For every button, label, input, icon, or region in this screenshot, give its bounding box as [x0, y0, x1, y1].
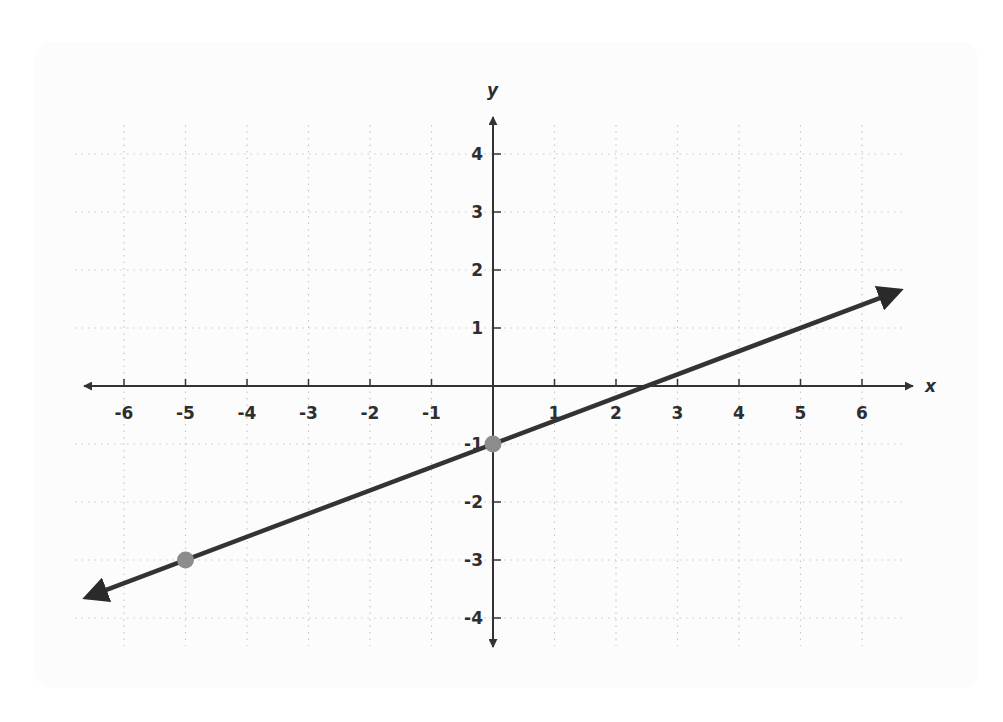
y-tick-label: -3 — [464, 550, 483, 570]
y-tick-label: 1 — [471, 318, 483, 338]
axes — [84, 117, 913, 647]
y-tick-label: -4 — [464, 608, 483, 628]
x-tick-label: -4 — [238, 403, 257, 423]
y-axis-label: y — [487, 80, 499, 100]
y-tick-label: 3 — [471, 202, 483, 222]
x-tick-label: -3 — [299, 403, 318, 423]
coordinate-plane: -6-5-4-3-2-11234564321-1-2-3-4 x y — [0, 0, 1003, 722]
x-tick-label: -2 — [361, 403, 380, 423]
x-tick-label: -6 — [115, 403, 134, 423]
x-tick-label: -1 — [422, 403, 441, 423]
data-point — [177, 552, 194, 569]
x-tick-label: 4 — [733, 403, 745, 423]
x-tick-label: 5 — [795, 403, 807, 423]
x-tick-label: 3 — [672, 403, 684, 423]
y-tick-label: -2 — [464, 492, 483, 512]
y-tick-label: 4 — [471, 144, 483, 164]
data-point — [485, 436, 502, 453]
x-tick-label: -5 — [176, 403, 195, 423]
y-tick-label: 2 — [471, 260, 483, 280]
x-tick-label: 6 — [856, 403, 868, 423]
x-tick-label: 2 — [610, 403, 622, 423]
x-axis-label: x — [924, 376, 937, 396]
